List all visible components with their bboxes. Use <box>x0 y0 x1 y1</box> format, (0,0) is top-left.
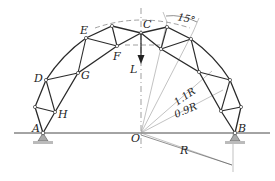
label-B: B <box>237 122 246 135</box>
inner-chord <box>43 33 235 133</box>
label-R: R <box>179 144 188 157</box>
label-O: O <box>131 132 140 145</box>
label-A: A <box>31 122 40 135</box>
label-angle: 15° <box>177 11 197 25</box>
label-C: C <box>143 18 152 31</box>
joints <box>33 24 242 113</box>
label-E: E <box>79 24 88 37</box>
load-arrow <box>138 33 145 64</box>
web-members <box>35 26 241 112</box>
label-H: H <box>57 108 68 121</box>
label-F: F <box>112 50 121 63</box>
truss-diagram: A B C D E F G H O L 15° 1.1R 0.9R R <box>0 0 275 181</box>
label-D: D <box>33 72 43 85</box>
label-L: L <box>129 63 137 76</box>
label-G: G <box>81 69 90 82</box>
